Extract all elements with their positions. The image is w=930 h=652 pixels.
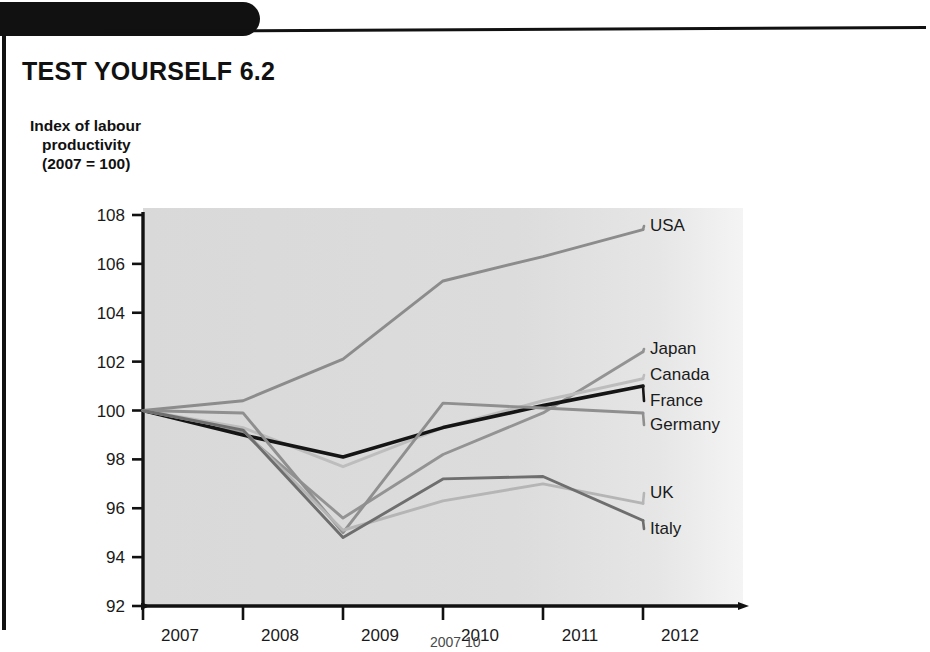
y-tick-label: 100 bbox=[97, 402, 125, 421]
y-tick-label: 102 bbox=[97, 353, 125, 372]
series-label-germany: Germany bbox=[650, 415, 720, 434]
x-tick-label: 2008 bbox=[261, 626, 299, 645]
leader-line-japan bbox=[643, 349, 644, 352]
x-tick-label: 2007 bbox=[161, 626, 199, 645]
chart-canvas: 92949698100102104106108 2007200820092010… bbox=[40, 16, 930, 652]
y-tick-label: 98 bbox=[106, 450, 125, 469]
y-tick-label: 94 bbox=[106, 548, 125, 567]
y-tick-label: 96 bbox=[106, 499, 125, 518]
y-tick-label: 108 bbox=[97, 206, 125, 225]
series-label-france: France bbox=[650, 391, 703, 410]
bottom-cutoff-text: 2007 10 bbox=[430, 634, 900, 650]
leader-line-france bbox=[643, 386, 644, 401]
series-label-japan: Japan bbox=[650, 339, 696, 358]
leader-line-uk bbox=[643, 493, 644, 503]
series-label-italy: Italy bbox=[650, 519, 682, 538]
series-label-canada: Canada bbox=[650, 365, 710, 384]
series-label-uk: UK bbox=[650, 483, 674, 502]
x-tick-label: 2009 bbox=[361, 626, 399, 645]
y-tick-label: 104 bbox=[97, 304, 125, 323]
series-label-usa: USA bbox=[650, 216, 686, 235]
y-tick-label: 106 bbox=[97, 255, 125, 274]
y-axis-tick-labels: 92949698100102104106108 bbox=[97, 206, 125, 616]
leader-line-canada bbox=[643, 375, 644, 379]
x-axis-ticks bbox=[143, 606, 643, 620]
leader-line-germany bbox=[643, 413, 644, 425]
leader-line-usa bbox=[643, 226, 644, 230]
left-margin-rule bbox=[2, 30, 6, 630]
y-tick-label: 92 bbox=[106, 597, 125, 616]
line-chart: 92949698100102104106108 2007200820092010… bbox=[40, 16, 930, 652]
leader-line-italy bbox=[643, 520, 644, 529]
